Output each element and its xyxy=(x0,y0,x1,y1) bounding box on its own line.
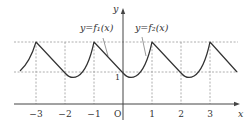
guide-lines xyxy=(14,42,238,104)
x-axis-label: x xyxy=(238,108,244,119)
function-curve xyxy=(20,42,237,77)
origin-label: O xyxy=(114,109,121,119)
y-axis-label: y xyxy=(112,3,119,14)
function-graph: y=f₁(x) y=f₂(x) y x O 1 −3 −2 −1 1 2 3 xyxy=(0,0,251,125)
axes xyxy=(14,8,240,120)
x-tick-2: 2 xyxy=(178,109,184,119)
label-f1: y=f₁(x) xyxy=(79,22,114,33)
x-tick-neg3: −3 xyxy=(29,109,43,119)
y-axis-arrow-icon xyxy=(121,8,125,14)
x-tick-3: 3 xyxy=(207,109,213,119)
x-axis-arrow-icon xyxy=(234,102,240,106)
x-tick-neg1: −1 xyxy=(87,109,100,119)
label-f2: y=f₂(x) xyxy=(134,22,169,33)
x-tick-1: 1 xyxy=(149,109,155,119)
y-tick-1: 1 xyxy=(115,73,120,82)
x-tick-neg2: −2 xyxy=(58,109,71,119)
f2-leader-line xyxy=(142,37,146,56)
